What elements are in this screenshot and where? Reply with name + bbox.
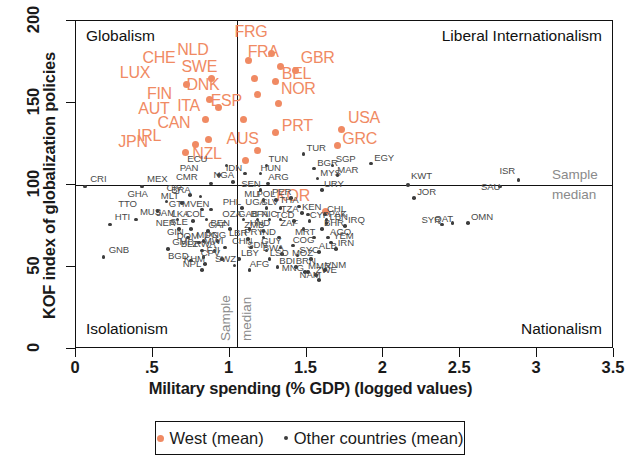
point-label-kwt: KWT xyxy=(411,170,432,181)
data-point-bgr xyxy=(312,167,316,171)
sample-median-vertical-label-line2: median xyxy=(240,297,254,341)
point-label-nld: NLD xyxy=(177,41,208,59)
point-label-tur: TUR xyxy=(306,142,325,153)
x-tick-2.5 xyxy=(459,348,460,357)
point-label-isr: ISR xyxy=(499,165,515,176)
data-point-ven xyxy=(209,208,213,212)
point-label-npl: NPL xyxy=(183,258,201,269)
data-point-can xyxy=(205,136,212,143)
point-label-idn: IDN xyxy=(226,162,242,173)
legend-item-west: West (mean) xyxy=(157,429,264,448)
point-label-afg: AFG xyxy=(250,258,269,269)
point-label-tto: TTO xyxy=(118,198,137,209)
point-label-che: CHE xyxy=(142,49,175,67)
point-label-slv: SLV xyxy=(261,196,278,207)
point-label-gnb: GNB xyxy=(109,244,130,255)
x-tick-label-2.5: 2.5 xyxy=(434,358,484,377)
point-label-can: CAN xyxy=(157,114,190,132)
y-tick-150 xyxy=(66,102,75,103)
point-label-nor: NOR xyxy=(281,80,316,98)
x-axis-title: Military spending (% GDP) (logged values… xyxy=(0,379,621,398)
y-tick-label-100: 100 xyxy=(24,155,43,213)
point-label-sgp: SGP xyxy=(336,153,356,164)
y-tick-label-0: 0 xyxy=(24,319,43,377)
point-label-egy: EGY xyxy=(374,152,394,163)
data-point-egy xyxy=(369,162,373,166)
x-tick-label-1.5: 1.5 xyxy=(281,358,331,377)
data-point-nor xyxy=(275,100,282,107)
point-label-vnm: VNM xyxy=(325,259,346,270)
point-label-ken: KEN xyxy=(302,201,321,212)
point-label-sau: SAU xyxy=(481,181,500,192)
data-point-mys xyxy=(316,177,320,181)
point-label-gha: GHA xyxy=(127,188,148,199)
data-point-hti xyxy=(108,223,112,227)
x-tick-label-.5: .5 xyxy=(127,358,177,377)
x-tick-label-1: 1 xyxy=(204,358,254,377)
point-label-irq: IRQ xyxy=(348,214,365,225)
x-tick-label-0: 0 xyxy=(50,358,100,377)
point-label-mex: MEX xyxy=(147,173,168,184)
data-point-nga xyxy=(231,180,235,184)
data-point-jor xyxy=(412,196,416,200)
legend-marker-other-icon xyxy=(284,436,288,440)
y-tick-100 xyxy=(66,184,75,185)
point-label-arg: ARG xyxy=(268,171,289,182)
point-label-nam: NAM xyxy=(300,269,321,280)
quadrant-label-globalism: Globalism xyxy=(86,27,155,45)
y-tick-0 xyxy=(66,348,75,349)
data-point-gnb xyxy=(102,255,106,259)
legend-label-west: West (mean) xyxy=(170,429,264,448)
data-point-kwt xyxy=(406,183,410,187)
sample-median-horizontal-label-line2: median xyxy=(552,188,596,202)
y-tick-label-150: 150 xyxy=(24,73,43,131)
point-label-col: COL xyxy=(185,208,204,219)
point-label-frg: FRG xyxy=(234,23,267,41)
data-point-grc xyxy=(334,142,341,149)
data-point-prt xyxy=(272,129,279,136)
point-label-ben: BEN xyxy=(210,217,229,228)
data-point-cri xyxy=(83,185,87,189)
legend-item-other: Other countries (mean) xyxy=(284,429,464,448)
point-label-swe: SWE xyxy=(182,58,218,76)
legend-marker-west-icon xyxy=(157,435,164,442)
legend-label-other: Other countries (mean) xyxy=(294,429,464,448)
sample-median-vertical-label-line1: Sample xyxy=(219,295,233,341)
x-tick-label-3: 3 xyxy=(511,358,561,377)
x-tick-3 xyxy=(536,348,537,357)
quadrant-label-isolationism: Isolationism xyxy=(86,320,168,338)
point-label-cri: CRI xyxy=(90,173,106,184)
point-label-gbr: GBR xyxy=(301,49,335,67)
x-tick-1.5 xyxy=(306,348,307,357)
quadrant-label-liberal-internationalism: Liberal Internationalism xyxy=(442,27,602,45)
point-label-jor: JOR xyxy=(417,186,436,197)
data-point-dnk xyxy=(254,91,261,98)
data-point-irq xyxy=(343,224,347,228)
x-tick-3.5 xyxy=(613,348,614,357)
data-point-aut xyxy=(202,116,209,123)
data-point-lbn xyxy=(325,221,329,225)
x-tick-2 xyxy=(382,348,383,357)
point-label-usa: USA xyxy=(348,109,380,127)
point-label-omn: OMN xyxy=(471,211,493,222)
quadrant-label-nationalism: Nationalism xyxy=(521,320,602,338)
data-point-tur xyxy=(302,152,306,156)
point-label-tun: TUN xyxy=(269,153,288,164)
point-label-phl: PHL xyxy=(223,196,241,207)
plot-area: Globalism Liberal Internationalism Isola… xyxy=(75,20,613,348)
point-label-qat: QAT xyxy=(434,213,453,224)
data-point-mus xyxy=(134,218,138,222)
data-point-idn xyxy=(243,172,247,176)
data-point-mwi xyxy=(223,246,227,250)
point-label-cmr: CMR xyxy=(176,171,198,182)
point-label-irn: IRN xyxy=(338,237,354,248)
point-label-bra: BRA xyxy=(171,184,190,195)
x-tick-.5 xyxy=(152,348,153,357)
y-tick-label-50: 50 xyxy=(24,237,43,295)
point-label-jpn: JPN xyxy=(118,133,147,151)
point-label-fra: FRA xyxy=(248,43,279,61)
point-label-hti: HTI xyxy=(115,211,130,222)
point-label-aus: AUS xyxy=(227,130,259,148)
x-tick-label-2: 2 xyxy=(357,358,407,377)
